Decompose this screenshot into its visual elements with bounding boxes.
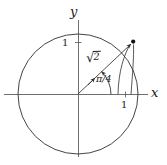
y-axis-tick-label-1: 1 bbox=[62, 38, 68, 48]
x-axis-tick-label-1: 1 bbox=[121, 100, 127, 110]
terminal-point-dot bbox=[131, 40, 135, 44]
angle-label: π/4 bbox=[96, 74, 112, 84]
radius-mid-arrow bbox=[88, 78, 95, 85]
unit-circle-figure: y x 1 1 π/4 √2 bbox=[0, 0, 167, 165]
sqrt-expression: √2 bbox=[86, 50, 101, 64]
radius-length-label: √2 bbox=[86, 50, 101, 63]
figure-canvas bbox=[0, 0, 167, 165]
sqrt-radicand: 2 bbox=[93, 51, 101, 62]
y-axis-label: y bbox=[70, 5, 77, 18]
x-axis-label: x bbox=[151, 86, 158, 99]
